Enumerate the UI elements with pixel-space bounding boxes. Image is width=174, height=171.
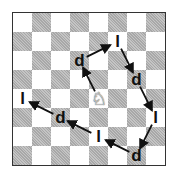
tour-label-c3: d <box>51 108 70 127</box>
tour-label-g5: d <box>127 70 146 89</box>
arrow-h3-g1 <box>140 125 152 149</box>
tour-label-h3: l <box>146 108 165 127</box>
arrow-f7-g5 <box>121 49 133 73</box>
arrow-g5-h3 <box>140 87 152 111</box>
tour-label-a4: l <box>13 89 32 108</box>
tour-label-d6: d <box>70 51 89 70</box>
arrow-c3-a4 <box>30 102 54 114</box>
arrow-d6-f7 <box>87 45 111 57</box>
arrow-e2-c3 <box>68 121 92 133</box>
tour-label-e2: l <box>89 127 108 146</box>
tour-label-f7: l <box>108 32 127 51</box>
white-knight-icon: ♘ <box>89 89 108 108</box>
chessboard: ♘dldldldl <box>12 12 166 166</box>
arrow-g1-e2 <box>106 140 130 152</box>
tour-label-g1: d <box>127 146 146 165</box>
